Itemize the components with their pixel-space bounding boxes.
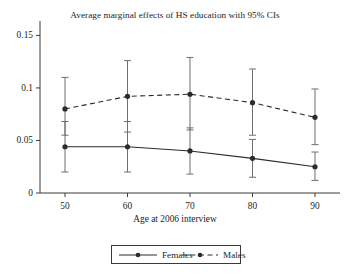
axes bbox=[36, 21, 340, 197]
legend-swatch-females bbox=[118, 248, 158, 262]
x-tick-label: 90 bbox=[310, 201, 319, 211]
data-point-marker bbox=[125, 144, 130, 149]
chart-legend: Females Males bbox=[111, 245, 241, 264]
legend-label-males: Males bbox=[223, 250, 245, 260]
error-bar bbox=[62, 77, 69, 135]
data-point-marker bbox=[312, 115, 317, 120]
data-point-marker bbox=[312, 164, 317, 169]
data-point-marker bbox=[62, 106, 67, 111]
y-tick-label: 0.05 bbox=[17, 135, 33, 145]
x-tick-label: 70 bbox=[185, 201, 194, 211]
y-tick-label: 0.1 bbox=[21, 83, 33, 93]
data-point-marker bbox=[250, 100, 255, 105]
data-point-marker bbox=[250, 156, 255, 161]
chart-figure: Average marginal effects of HS education… bbox=[0, 0, 350, 275]
y-tick-label: 0 bbox=[28, 188, 33, 198]
x-axis-label: Age at 2006 interview bbox=[0, 214, 350, 224]
plot-area bbox=[0, 0, 350, 275]
data-point-marker bbox=[187, 92, 192, 97]
x-tick-label: 50 bbox=[60, 201, 69, 211]
y-tick-label: 0.15 bbox=[17, 30, 33, 40]
legend-swatch-males bbox=[181, 248, 219, 262]
data-point-marker bbox=[187, 148, 192, 153]
data-series-group bbox=[62, 57, 319, 180]
x-tick-label: 80 bbox=[248, 201, 257, 211]
data-point-marker bbox=[62, 144, 67, 149]
data-point-marker bbox=[125, 94, 130, 99]
x-tick-label: 60 bbox=[123, 201, 132, 211]
